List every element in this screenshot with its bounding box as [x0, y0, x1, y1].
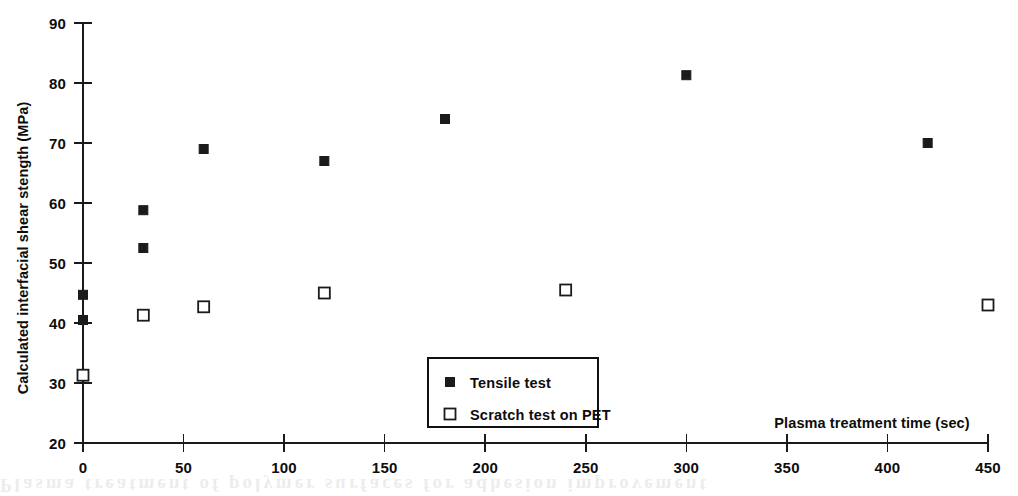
- legend-marker-tensile: [446, 378, 455, 387]
- data-point-scratch: [560, 285, 571, 296]
- y-axis-title: Calculated interfacial shear stength (MP…: [15, 102, 31, 395]
- legend-label: Tensile test: [470, 375, 551, 391]
- y-tick-label: 60: [49, 195, 66, 212]
- data-point-scratch: [138, 310, 149, 321]
- data-point-scratch: [198, 301, 209, 312]
- x-tick-label: 0: [79, 459, 88, 476]
- data-point-tensile: [441, 115, 450, 124]
- y-tick-label: 50: [49, 255, 66, 272]
- y-tick-label: 90: [49, 15, 66, 32]
- data-point-tensile: [682, 71, 691, 80]
- data-point-scratch: [983, 300, 994, 311]
- x-axis-ticks: 050100150200250300350400450: [79, 434, 1001, 476]
- x-tick-label: 150: [372, 459, 398, 476]
- data-point-scratch: [78, 370, 89, 381]
- legend-label: Scratch test on PET: [470, 407, 611, 423]
- data-point-tensile: [79, 290, 88, 299]
- y-tick-label: 40: [49, 315, 66, 332]
- data-point-tensile: [199, 145, 208, 154]
- data-point-tensile: [79, 316, 88, 325]
- x-tick-label: 300: [674, 459, 700, 476]
- y-axis-ticks: 2030405060708090: [49, 15, 92, 452]
- legend: Tensile testScratch test on PET: [428, 358, 611, 427]
- x-tick-label: 450: [975, 459, 1001, 476]
- data-point-tensile: [320, 157, 329, 166]
- x-axis-title: Plasma treatment time (sec): [774, 415, 969, 431]
- legend-marker-scratch: [445, 409, 456, 420]
- data-series-group: [78, 71, 994, 381]
- data-point-tensile: [139, 244, 148, 253]
- x-tick-label: 200: [472, 459, 498, 476]
- scatter-chart: 2030405060708090 05010015020025030035040…: [0, 0, 1018, 496]
- y-tick-label: 30: [49, 375, 66, 392]
- x-tick-label: 350: [774, 459, 800, 476]
- data-point-tensile: [923, 139, 932, 148]
- data-point-scratch: [319, 288, 330, 299]
- chart-canvas: 2030405060708090 05010015020025030035040…: [0, 0, 1018, 496]
- x-tick-label: 50: [175, 459, 192, 476]
- x-tick-label: 100: [271, 459, 297, 476]
- x-tick-label: 400: [875, 459, 901, 476]
- x-tick-label: 250: [573, 459, 599, 476]
- data-point-tensile: [139, 206, 148, 215]
- y-tick-label: 80: [49, 75, 66, 92]
- y-tick-label: 70: [49, 135, 66, 152]
- y-tick-label: 20: [49, 435, 66, 452]
